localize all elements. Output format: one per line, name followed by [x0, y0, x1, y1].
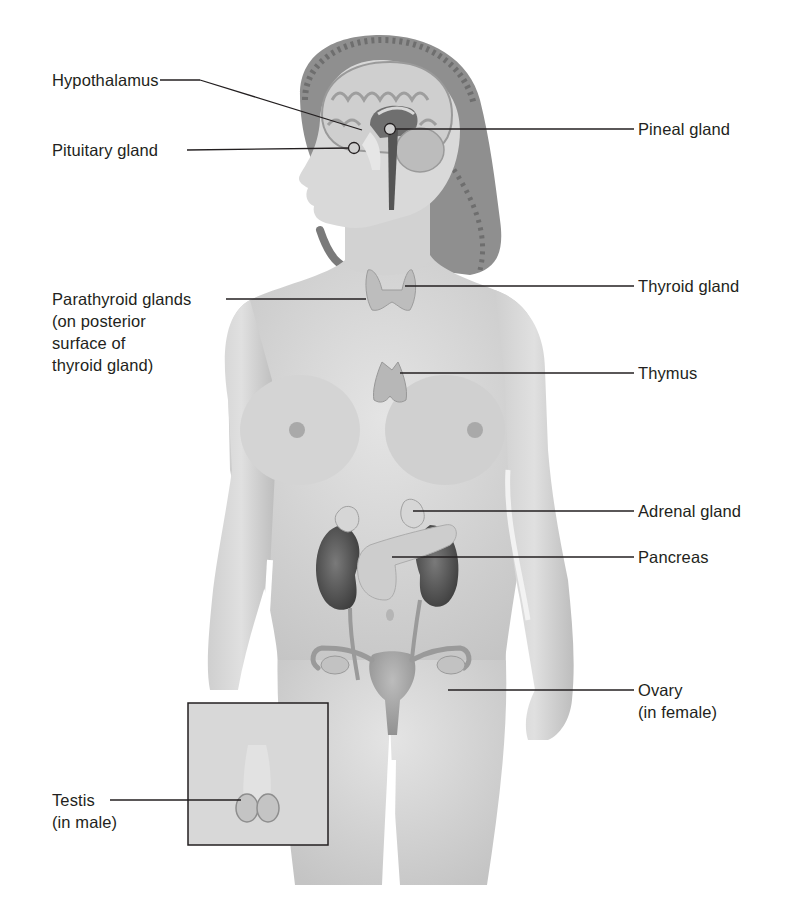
ovary-line-2: (in female) [638, 701, 717, 723]
label-adrenal-gland: Adrenal gland [638, 500, 741, 522]
testis-line-2: (in male) [52, 811, 117, 833]
left-arm [208, 300, 275, 700]
male-inset [188, 703, 328, 845]
label-parathyroid-glands: Parathyroid glands (on posterior surface… [52, 288, 191, 376]
label-thyroid-gland: Thyroid gland [638, 275, 739, 297]
label-ovary: Ovary (in female) [638, 679, 717, 723]
parathyroid-line-2: (on posterior [52, 310, 191, 332]
parathyroid-line-3: surface of [52, 332, 191, 354]
label-pancreas: Pancreas [638, 546, 709, 568]
ovary-line-1: Ovary [638, 679, 717, 701]
label-pineal-gland: Pineal gland [638, 118, 730, 140]
label-thymus: Thymus [638, 362, 697, 384]
parathyroid-line-1: Parathyroid glands [52, 288, 191, 310]
testis-line-1: Testis [52, 789, 117, 811]
label-pituitary-gland: Pituitary gland [52, 139, 158, 161]
navel [386, 609, 394, 621]
label-hypothalamus: Hypothalamus [52, 69, 159, 91]
parathyroid-line-4: thyroid gland) [52, 354, 191, 376]
label-testis: Testis (in male) [52, 789, 117, 833]
